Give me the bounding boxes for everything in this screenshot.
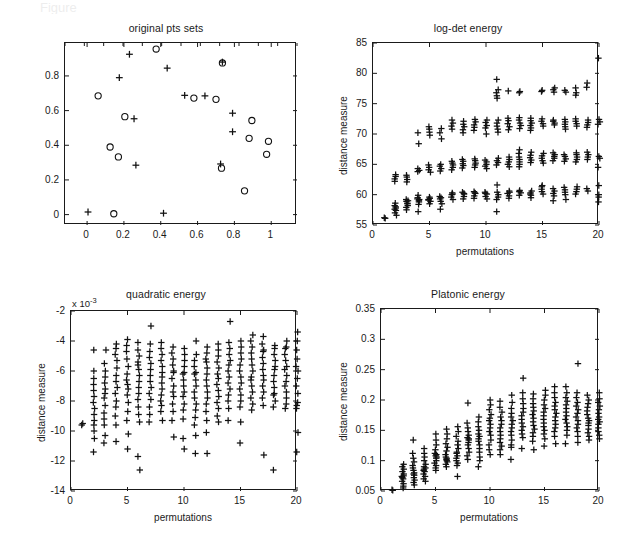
plus-marker: [542, 392, 548, 398]
plus-marker: [520, 409, 526, 415]
circle-marker: [241, 188, 247, 194]
x-tick-label: 1: [267, 229, 273, 240]
plus-marker: [158, 402, 164, 408]
plus-marker: [226, 374, 232, 380]
plus-marker: [461, 190, 467, 196]
plus-marker: [214, 359, 220, 365]
y-tick-label: 85: [330, 37, 367, 48]
plus-marker: [191, 389, 197, 395]
plus-marker: [170, 356, 176, 362]
plus-marker: [204, 450, 210, 456]
plus-marker: [136, 372, 142, 378]
plus-marker: [427, 132, 433, 138]
plus-marker: [410, 437, 416, 443]
plus-marker: [573, 394, 579, 400]
plus-marker: [192, 450, 198, 456]
plus-marker: [101, 410, 107, 416]
plus-marker: [214, 381, 220, 387]
plus-marker: [552, 399, 558, 405]
plus-marker: [160, 210, 167, 217]
y-tick-label: 0.25: [330, 363, 375, 374]
plus-marker: [217, 161, 224, 168]
plus-marker: [148, 384, 154, 390]
plus-marker: [552, 425, 558, 431]
x-tick-label: 0: [83, 229, 89, 240]
plus-marker: [449, 191, 455, 197]
plus-marker: [595, 428, 601, 434]
plus-marker: [454, 442, 460, 448]
plus-marker: [516, 188, 522, 194]
plus-marker: [249, 383, 255, 389]
plus-marker: [215, 347, 221, 353]
plus-marker: [449, 117, 455, 123]
plus-marker: [91, 405, 97, 411]
plus-marker: [250, 368, 256, 374]
plus-marker: [147, 348, 153, 354]
plus-marker: [159, 374, 165, 380]
plus-marker: [575, 360, 581, 366]
plus-marker: [164, 65, 171, 72]
y-tick-label: 0.15: [330, 424, 375, 435]
panel-title: log-det energy: [330, 22, 606, 34]
plus-marker: [192, 414, 198, 420]
x-tick-label: 15: [234, 495, 245, 506]
plus-marker: [215, 387, 221, 393]
x-tick-label: 0.6: [190, 229, 204, 240]
plus-marker: [248, 338, 254, 344]
plus-marker: [529, 411, 535, 417]
plus-marker: [494, 182, 500, 188]
plus-marker: [508, 456, 514, 462]
plus-marker: [146, 411, 152, 417]
plus-marker: [229, 110, 236, 117]
plus-marker: [193, 338, 199, 344]
plus-marker: [438, 136, 444, 142]
plus-marker: [238, 392, 244, 398]
plus-marker: [181, 401, 187, 407]
plus-marker: [466, 436, 472, 442]
exponent-value: -3: [90, 296, 97, 305]
plot-marks-layer: [373, 43, 599, 225]
plus-marker: [180, 435, 186, 441]
plus-marker: [283, 389, 289, 395]
plus-marker: [124, 356, 130, 362]
plus-marker: [90, 449, 96, 455]
plus-marker: [101, 395, 107, 401]
y-tick-label: 55: [330, 219, 367, 230]
circle-marker: [95, 93, 101, 99]
plus-marker: [216, 393, 222, 399]
plus-marker: [91, 347, 97, 353]
plus-marker: [193, 369, 199, 375]
plus-marker: [238, 350, 244, 356]
plus-marker: [225, 380, 231, 386]
plus-marker: [159, 380, 165, 386]
plus-marker: [181, 92, 188, 99]
plus-marker: [465, 400, 471, 406]
plus-marker: [181, 389, 187, 395]
plus-marker: [204, 344, 210, 350]
series-crosses: [79, 318, 302, 473]
series-crosses: [85, 51, 236, 217]
plus-marker: [193, 351, 199, 357]
plus-marker: [101, 380, 107, 386]
plus-marker: [102, 402, 108, 408]
plus-marker: [494, 123, 500, 129]
plus-marker: [135, 404, 141, 410]
plus-marker: [410, 455, 416, 461]
plus-marker: [125, 386, 131, 392]
x-tick-label: 20: [592, 495, 603, 506]
plus-marker: [180, 383, 186, 389]
x-tick-label: 5: [432, 495, 438, 506]
plus-marker: [226, 362, 232, 368]
plus-marker: [271, 366, 277, 372]
plus-marker: [584, 392, 590, 398]
circle-marker: [249, 117, 255, 123]
plus-marker: [181, 369, 187, 375]
plus-marker: [159, 386, 165, 392]
plus-marker: [259, 395, 265, 401]
circle-marker: [111, 211, 117, 217]
plus-marker: [137, 467, 143, 473]
plus-marker: [170, 369, 176, 375]
plus-marker: [509, 399, 515, 405]
y-tick-label: 0.3: [330, 333, 375, 344]
plus-marker: [191, 395, 197, 401]
